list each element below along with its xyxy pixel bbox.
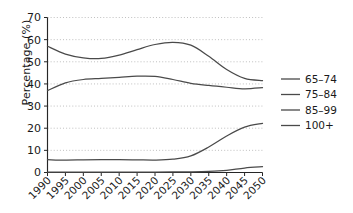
y-tick-label: 40 bbox=[27, 78, 41, 91]
legend-label-65-74: 65–74 bbox=[305, 73, 337, 85]
y-axis-ticks-group: 010203040506070 bbox=[27, 11, 48, 179]
y-tick-label: 60 bbox=[27, 34, 41, 47]
y-tick-label: 30 bbox=[27, 100, 41, 113]
legend-label-75-84: 75–84 bbox=[305, 88, 337, 100]
series-line-65-74 bbox=[48, 42, 263, 80]
series-line-75-84 bbox=[48, 76, 263, 91]
data-series-group bbox=[48, 42, 263, 172]
y-tick-label: 20 bbox=[27, 122, 41, 135]
y-tick-label: 10 bbox=[27, 144, 41, 157]
axis-lines-group bbox=[48, 18, 263, 173]
y-tick-label: 70 bbox=[27, 11, 41, 24]
y-tick-label: 50 bbox=[27, 56, 41, 69]
series-line-100+ bbox=[48, 167, 263, 172]
series-line-85-99 bbox=[48, 123, 263, 160]
chart-figure: Percentage (%) 010203040506070 199019952… bbox=[0, 0, 353, 213]
gridlines-group bbox=[48, 18, 263, 151]
line-chart-plot: 010203040506070 199019952000200520102015… bbox=[0, 0, 353, 213]
legend-group: 65–7475–8485–99100+ bbox=[281, 73, 337, 132]
legend-label-85-99: 85–99 bbox=[305, 104, 337, 116]
legend-label-100+: 100+ bbox=[305, 119, 334, 131]
x-axis-ticks-group: 1990199520002005201020152020202520302035… bbox=[26, 173, 268, 202]
